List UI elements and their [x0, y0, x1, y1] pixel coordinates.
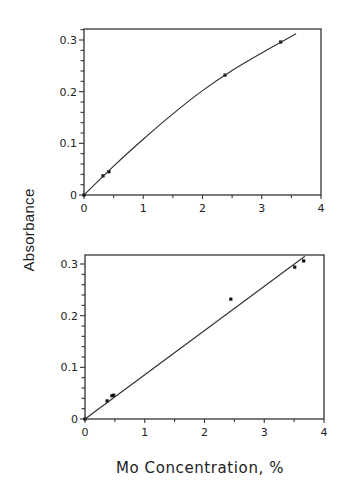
- top-panel-plot: 00.10.20.301234: [60, 29, 325, 215]
- y-tick-label: 0.3: [61, 258, 79, 271]
- y-tick-label: 0: [70, 189, 77, 202]
- bottom-panel-plot: 00.10.20.301234: [61, 255, 328, 439]
- data-point: [302, 259, 305, 262]
- plot-frame: [85, 255, 324, 419]
- data-point: [293, 266, 296, 269]
- x-tick-label: 2: [201, 426, 208, 439]
- x-tick-label: 1: [141, 426, 148, 439]
- calibration-figure: 00.10.20.301234 00.10.20.301234: [0, 0, 344, 484]
- y-tick-label: 0: [71, 413, 78, 426]
- x-tick-label: 4: [321, 426, 328, 439]
- x-tick-label: 3: [261, 426, 268, 439]
- y-tick-label: 0.3: [60, 34, 78, 47]
- plot-frame: [84, 29, 321, 195]
- fit-curve: [84, 34, 296, 195]
- x-tick-label: 1: [140, 202, 147, 215]
- x-tick-label: 0: [81, 202, 88, 215]
- data-point: [229, 298, 232, 301]
- x-tick-label: 4: [318, 202, 325, 215]
- y-tick-label: 0.1: [61, 361, 79, 374]
- y-tick-label: 0.2: [60, 86, 78, 99]
- y-tick-label: 0.2: [61, 310, 79, 323]
- y-axis-label: Absorbance: [20, 188, 37, 271]
- x-axis-label: Mo Concentration, %: [116, 459, 284, 477]
- fit-line: [85, 256, 305, 419]
- x-tick-label: 3: [258, 202, 265, 215]
- x-tick-label: 2: [199, 202, 206, 215]
- x-tick-label: 0: [82, 426, 89, 439]
- y-tick-label: 0.1: [60, 137, 78, 150]
